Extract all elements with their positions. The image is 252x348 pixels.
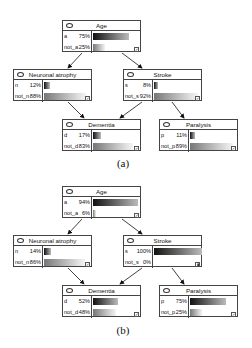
state-percent: 52% xyxy=(79,296,90,307)
state-label: not_n xyxy=(15,257,29,268)
check-icon[interactable]: ✓ xyxy=(85,96,90,101)
state-label: not_n xyxy=(15,91,29,102)
state-row: p75% xyxy=(160,296,188,307)
state-percent: 86% xyxy=(30,257,41,268)
state-row: not_d83% xyxy=(63,141,91,152)
node-body: n12%not_n88%✓ xyxy=(14,80,91,102)
node-header[interactable]: Neuronal atrophy xyxy=(14,236,91,246)
node-body: n14%not_n86%✓ xyxy=(14,246,91,268)
node-title: Stroke xyxy=(154,71,172,78)
probability-bars: ✓ xyxy=(92,197,140,219)
check-icon[interactable]: ✓ xyxy=(195,96,200,101)
node-neuronal[interactable]: Neuronal atrophyn12%not_n88%✓ xyxy=(13,69,92,101)
check-icon[interactable]: ✓ xyxy=(85,262,90,267)
check-icon[interactable]: ✓ xyxy=(134,213,139,218)
node-header[interactable]: Age xyxy=(63,21,140,31)
edge-age-neuronal xyxy=(68,219,82,234)
node-oval-icon xyxy=(163,288,170,293)
probability-bar xyxy=(190,309,202,316)
edge-neuronal-dementia xyxy=(68,102,84,118)
node-header[interactable]: Paralysis xyxy=(160,120,237,130)
check-icon[interactable]: ✓ xyxy=(231,312,236,317)
node-dementia[interactable]: Dementiad17%not_d83%✓ xyxy=(62,119,141,151)
state-percent: 75% xyxy=(176,296,187,307)
probability-bar xyxy=(190,143,233,150)
probability-bars: ▮ xyxy=(153,246,201,268)
node-title: Paralysis xyxy=(186,287,211,294)
node-body: s8%not_s92%✓ xyxy=(124,80,201,102)
state-row: not_s92% xyxy=(124,91,152,102)
state-row: s100% xyxy=(124,246,152,257)
node-header[interactable]: Dementia xyxy=(63,286,140,296)
node-title: Age xyxy=(96,188,107,195)
state-percent: 14% xyxy=(30,246,41,257)
node-body: d17%not_d83%✓ xyxy=(63,130,140,152)
check-icon[interactable]: ✓ xyxy=(134,312,139,317)
node-neuronal[interactable]: Neuronal atrophyn14%not_n86%✓ xyxy=(13,235,92,267)
state-row: not_p25% xyxy=(160,307,188,318)
state-percent: 83% xyxy=(79,141,90,152)
edge-stroke-dementia xyxy=(120,268,142,284)
probability-bar xyxy=(154,93,198,100)
node-stroke[interactable]: Strokes8%not_s92%✓ xyxy=(123,69,202,101)
state-row: a94% xyxy=(63,197,91,208)
probability-bars: ✓ xyxy=(153,80,201,102)
state-row: d52% xyxy=(63,296,91,307)
state-label: s xyxy=(125,80,128,91)
state-row: not_d48% xyxy=(63,307,91,318)
node-stroke[interactable]: Strokes100%not_s0%▮ xyxy=(123,235,202,267)
state-percent: 48% xyxy=(79,307,90,318)
state-label: not_d xyxy=(64,307,78,318)
state-percent: 11% xyxy=(176,130,187,141)
check-icon[interactable]: ✓ xyxy=(134,146,139,151)
probability-bar xyxy=(93,33,129,40)
node-dementia[interactable]: Dementiad52%not_d48%✓ xyxy=(62,285,141,317)
node-age[interactable]: Agea94%not_a6%✓ xyxy=(62,186,141,218)
state-percent: 89% xyxy=(176,141,187,152)
state-label: not_p xyxy=(161,307,175,318)
state-label: not_a xyxy=(64,42,78,53)
check-icon[interactable]: ✓ xyxy=(231,146,236,151)
state-label: n xyxy=(15,80,18,91)
node-header[interactable]: Dementia xyxy=(63,120,140,130)
node-header[interactable]: Stroke xyxy=(124,236,201,246)
edge-stroke-paralysis xyxy=(172,102,184,118)
node-title: Age xyxy=(96,22,107,29)
state-percent: 92% xyxy=(140,91,151,102)
state-percent: 6% xyxy=(82,208,90,219)
node-body: a94%not_a6%✓ xyxy=(63,197,140,219)
evidence-set-icon[interactable]: ▮ xyxy=(195,262,200,267)
panel-b: Agea94%not_a6%✓Neuronal atrophyn14%not_n… xyxy=(0,166,252,348)
state-labels: s100%not_s0% xyxy=(124,246,153,268)
probability-bar xyxy=(93,44,105,51)
probability-bar xyxy=(44,248,51,255)
node-body: p75%not_p25%✓ xyxy=(160,296,237,318)
state-row: a75% xyxy=(63,31,91,42)
node-age[interactable]: Agea75%not_a25%✓ xyxy=(62,20,141,52)
probability-bar xyxy=(44,93,86,100)
state-labels: p11%not_p89% xyxy=(160,130,189,152)
probability-bars: ✓ xyxy=(189,296,237,318)
node-header[interactable]: Paralysis xyxy=(160,286,237,296)
node-header[interactable]: Stroke xyxy=(124,70,201,80)
edge-age-neuronal xyxy=(68,53,82,68)
state-label: not_a xyxy=(64,208,78,219)
state-row: not_s0% xyxy=(124,257,152,268)
edge-stroke-dementia xyxy=(120,102,142,118)
node-header[interactable]: Neuronal atrophy xyxy=(14,70,91,80)
state-label: n xyxy=(15,246,18,257)
node-paralysis[interactable]: Paralysisp75%not_p25%✓ xyxy=(159,285,238,317)
probability-bar xyxy=(93,199,138,206)
probability-bar xyxy=(154,248,202,255)
node-paralysis[interactable]: Paralysisp11%not_p89%✓ xyxy=(159,119,238,151)
node-oval-icon xyxy=(66,23,73,28)
state-row: not_n88% xyxy=(14,91,42,102)
node-header[interactable]: Age xyxy=(63,187,140,197)
probability-bar xyxy=(190,132,195,139)
check-icon[interactable]: ✓ xyxy=(134,47,139,52)
state-label: p xyxy=(161,130,164,141)
probability-bar xyxy=(93,132,101,139)
probability-bars: ✓ xyxy=(189,130,237,152)
probability-bars: ✓ xyxy=(92,296,140,318)
state-row: not_a6% xyxy=(63,208,91,219)
